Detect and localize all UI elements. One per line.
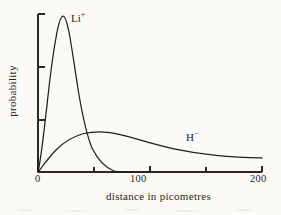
series-label-h-minus: H− [186,132,198,143]
figure-page: 0 100 200 distance in picometres probabi… [0,0,281,215]
y-axis-title: probability [6,51,18,131]
curve-h-minus [38,132,262,172]
y-axis-ticks [38,14,45,120]
x-axis-title: distance in picometres [0,190,281,202]
series-label-li-plus: Li+ [71,13,85,24]
series-label-li-base: Li [71,12,81,24]
scan-artifact [0,206,281,214]
series-label-h-base: H [186,131,194,143]
x-axis-title-text: distance in picometres [70,190,211,202]
series-label-li-charge: + [81,10,86,19]
axis-lines [38,14,262,172]
radial-probability-chart: 0 100 200 distance in picometres probabi… [0,0,281,215]
series-label-h-charge: − [194,129,199,138]
x-axis-ticks [38,166,262,172]
x-tick-label-200: 200 [250,174,266,185]
x-tick-label-100: 100 [130,174,146,185]
curve-li-plus [38,16,150,172]
x-tick-label-0: 0 [35,174,40,185]
